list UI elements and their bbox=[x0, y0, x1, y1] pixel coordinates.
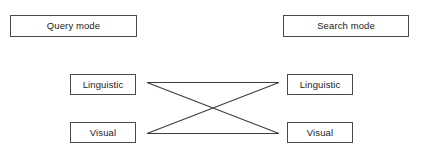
query-mode-visual-label: Visual bbox=[90, 128, 116, 138]
query-mode-linguistic-label: Linguistic bbox=[83, 80, 124, 90]
search-mode-visual-label: Visual bbox=[307, 128, 333, 138]
connector-visual-to-linguistic bbox=[147, 83, 279, 134]
query-mode-header-box[interactable]: Query mode bbox=[10, 15, 137, 37]
search-mode-label: Search mode bbox=[317, 21, 375, 31]
search-mode-visual-box[interactable]: Visual bbox=[287, 122, 353, 143]
diagram-canvas: Query mode Search mode Linguistic Visual… bbox=[0, 0, 422, 158]
query-mode-linguistic-box[interactable]: Linguistic bbox=[70, 74, 136, 95]
search-mode-linguistic-box[interactable]: Linguistic bbox=[287, 74, 353, 95]
query-mode-label: Query mode bbox=[47, 21, 100, 31]
query-mode-visual-box[interactable]: Visual bbox=[70, 122, 136, 143]
search-mode-linguistic-label: Linguistic bbox=[300, 80, 341, 90]
search-mode-header-box[interactable]: Search mode bbox=[283, 15, 409, 37]
connector-linguistic-to-visual bbox=[147, 83, 279, 134]
